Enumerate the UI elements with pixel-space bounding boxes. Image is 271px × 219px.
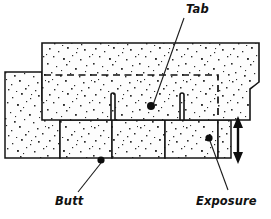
lower-course-tab-2 — [112, 120, 165, 158]
exposure-dimension-arrow — [233, 116, 243, 164]
diagram-canvas — [0, 0, 271, 219]
label-exposure: Exposure — [196, 196, 257, 208]
label-tab: Tab — [186, 4, 209, 16]
shingle-diagram: Tab Butt Exposure — [0, 0, 271, 219]
lower-course-right-sliver — [218, 120, 231, 158]
exposure-leader-dot — [205, 134, 212, 141]
butt-leader-dot — [97, 156, 104, 163]
tab-leader-dot — [147, 102, 155, 110]
butt-leader-line — [78, 163, 101, 192]
arrow-head-down — [233, 152, 243, 164]
label-butt: Butt — [55, 196, 83, 208]
lower-course-tab-1 — [60, 120, 112, 158]
